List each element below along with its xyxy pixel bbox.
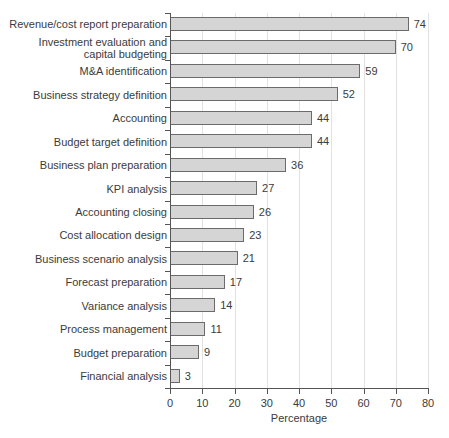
category-label-text: Investment evaluation and capital budget… — [39, 36, 167, 61]
x-axis-tick-label: 80 — [413, 396, 443, 410]
category-label: Business strategy definition — [0, 83, 167, 106]
bar-value-label: 44 — [317, 110, 329, 126]
bar-chart: 747059524444362726232117141193 Revenue/c… — [0, 0, 449, 438]
bar-value-label: 3 — [185, 368, 191, 384]
x-axis-tick-label: 10 — [187, 396, 217, 410]
category-label: Business plan preparation — [0, 154, 167, 177]
bar[interactable] — [170, 134, 312, 148]
bar-row: 44 — [170, 107, 428, 130]
bar[interactable] — [170, 369, 180, 383]
bar[interactable] — [170, 111, 312, 125]
bar[interactable] — [170, 298, 215, 312]
x-axis-tick-label: 70 — [381, 396, 411, 410]
x-axis-tick — [428, 389, 429, 394]
category-label-text: Forecast preparation — [66, 276, 168, 289]
bar-value-label: 9 — [204, 344, 210, 360]
category-label-text: Variance analysis — [82, 300, 167, 313]
x-axis-tick — [299, 389, 300, 394]
bar-row: 21 — [170, 247, 428, 270]
bar[interactable] — [170, 322, 205, 336]
category-label-text: Revenue/cost report preparation — [9, 18, 167, 31]
category-label-text: Budget preparation — [73, 347, 167, 360]
category-label: Forecast preparation — [0, 271, 167, 294]
category-label: Financial analysis — [0, 365, 167, 388]
bar-row: 44 — [170, 130, 428, 153]
category-label: Budget preparation — [0, 341, 167, 364]
category-label: M&A identification — [0, 60, 167, 83]
bar[interactable] — [170, 40, 396, 54]
category-label: Cost allocation design — [0, 224, 167, 247]
category-label: Revenue/cost report preparation — [0, 13, 167, 36]
gridline — [428, 13, 429, 388]
bar[interactable] — [170, 205, 254, 219]
bar-row: 26 — [170, 201, 428, 224]
category-label-text: KPI analysis — [106, 183, 167, 196]
bar-value-label: 17 — [230, 274, 242, 290]
category-label-text: Budget target definition — [54, 136, 167, 149]
bar-value-label: 27 — [262, 180, 274, 196]
x-axis-tick-label: 20 — [220, 396, 250, 410]
bar[interactable] — [170, 345, 199, 359]
x-axis-tick — [202, 389, 203, 394]
plot-area: 747059524444362726232117141193 — [170, 13, 428, 388]
bar-row: 52 — [170, 83, 428, 106]
x-axis-tick — [396, 389, 397, 394]
x-axis-tick-label: 40 — [284, 396, 314, 410]
bar[interactable] — [170, 17, 409, 31]
x-axis-tick — [235, 389, 236, 394]
x-axis-tick — [364, 389, 365, 394]
bar-value-label: 11 — [210, 321, 221, 337]
bar-row: 17 — [170, 271, 428, 294]
bar-value-label: 74 — [414, 16, 426, 32]
x-axis-tick — [331, 389, 332, 394]
bar-value-label: 36 — [291, 157, 303, 173]
bar-value-label: 70 — [401, 39, 413, 55]
bar-row: 9 — [170, 341, 428, 364]
category-label: Business scenario analysis — [0, 247, 167, 270]
bar-row: 14 — [170, 294, 428, 317]
category-label: Variance analysis — [0, 294, 167, 317]
category-label-text: Business plan preparation — [40, 159, 167, 172]
bar-row: 23 — [170, 224, 428, 247]
bar[interactable] — [170, 181, 257, 195]
x-axis-tick — [267, 389, 268, 394]
bar-row: 3 — [170, 365, 428, 388]
x-axis-tick-label: 30 — [252, 396, 282, 410]
bar-row: 36 — [170, 154, 428, 177]
bar-value-label: 26 — [259, 204, 271, 220]
bar[interactable] — [170, 228, 244, 242]
bar-value-label: 14 — [220, 297, 232, 313]
category-label-text: Business scenario analysis — [35, 253, 167, 266]
category-label-text: Accounting closing — [75, 206, 167, 219]
bar-row: 11 — [170, 318, 428, 341]
y-axis-line — [170, 13, 171, 388]
category-label: Budget target definition — [0, 130, 167, 153]
category-label: Process management — [0, 318, 167, 341]
bar-row: 59 — [170, 60, 428, 83]
bar-row: 27 — [170, 177, 428, 200]
category-label-text: Accounting — [113, 112, 167, 125]
bar-row: 74 — [170, 13, 428, 36]
bar-value-label: 21 — [243, 250, 255, 266]
category-label: Accounting closing — [0, 201, 167, 224]
bar-row: 70 — [170, 36, 428, 59]
x-axis-tick — [170, 389, 171, 394]
x-axis-tick-label: 50 — [316, 396, 346, 410]
x-axis-tick-label: 60 — [349, 396, 379, 410]
x-axis-tick-label: 0 — [155, 396, 185, 410]
category-label-text: Cost allocation design — [59, 229, 167, 242]
category-label-text: Business strategy definition — [33, 89, 167, 102]
bar-value-label: 44 — [317, 133, 329, 149]
category-label: Investment evaluation and capital budget… — [0, 36, 167, 59]
bar[interactable] — [170, 64, 360, 78]
bar[interactable] — [170, 251, 238, 265]
bar[interactable] — [170, 87, 338, 101]
bar-value-label: 23 — [249, 227, 261, 243]
bar-value-label: 59 — [365, 63, 377, 79]
x-axis-title: Percentage — [170, 412, 428, 424]
bar[interactable] — [170, 158, 286, 172]
category-label: KPI analysis — [0, 177, 167, 200]
category-label-text: Process management — [60, 323, 167, 336]
bar-value-label: 52 — [343, 86, 355, 102]
bar[interactable] — [170, 275, 225, 289]
